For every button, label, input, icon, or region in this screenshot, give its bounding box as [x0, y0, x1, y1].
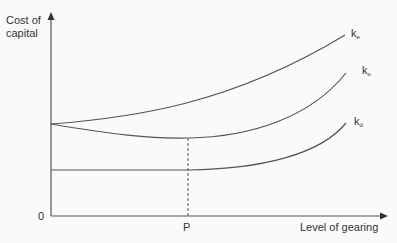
curve-label-kd: kd — [354, 115, 363, 132]
p-label: P — [183, 221, 190, 234]
curve-ko — [51, 73, 346, 138]
y-axis-label: Cost of capital — [6, 14, 50, 40]
x-axis-arrow-icon — [380, 213, 388, 220]
y-axis-label-line1: Cost of — [6, 14, 50, 27]
curve-label-ko: ko — [362, 64, 371, 81]
y-axis-label-line2: capital — [6, 27, 50, 40]
gearing-diagram — [0, 0, 397, 243]
x-axis-label: Level of gearing — [300, 221, 378, 234]
curve-label-ke: ke — [351, 27, 360, 44]
curve-kd — [51, 123, 346, 170]
origin-label: 0 — [38, 210, 44, 223]
